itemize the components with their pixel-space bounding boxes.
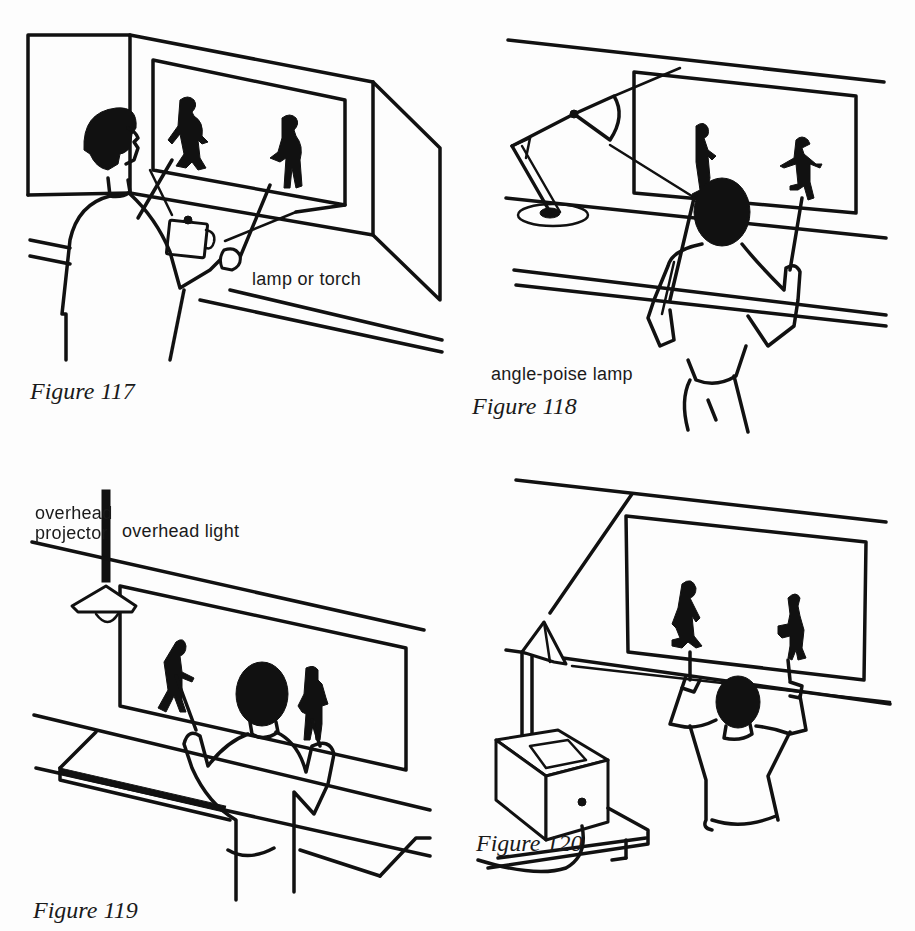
label-overhead-projector-line1: overhead [35,504,112,524]
figure-120-illustration [450,450,915,931]
figure-117-illustration [0,0,450,440]
label-overhead-light: overhead light [122,522,239,542]
figure-117-caption: Figure 117 [30,378,135,405]
label-angle-poise-lamp: angle-poise lamp [491,365,633,385]
figure-120-caption: Figure 120 [476,830,582,857]
figure-118-caption: Figure 118 [472,393,577,420]
figure-120: overhead projector Figure 120 [450,450,915,931]
label-lamp-or-torch: lamp or torch [252,270,361,290]
figure-119-caption: Figure 119 [33,897,138,924]
figure-118: angle-poise lamp Figure 118 [450,0,915,440]
label-overhead-projector-line2: projector [35,524,108,544]
figure-117: lamp or torch Figure 117 [0,0,450,440]
